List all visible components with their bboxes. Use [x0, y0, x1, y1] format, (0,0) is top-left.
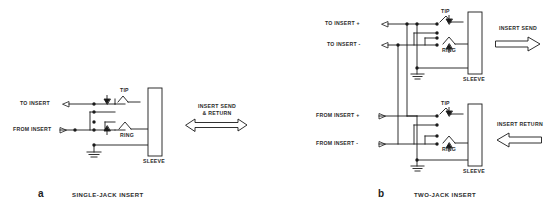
- panel-b-terminal-to-insert-minus-label: TO INSERT -: [327, 41, 361, 47]
- insert-send-return-arrow: [186, 119, 247, 131]
- panel-b-return-sleeve-label: SLEEVE: [463, 168, 485, 174]
- panel-b-insert-return-label: INSERT RETURN: [485, 121, 555, 128]
- panel-b-return-ring-label: RING: [442, 146, 456, 152]
- panel-a-ring-label: RING: [120, 132, 134, 138]
- schematic-drawing: [0, 0, 558, 224]
- panel-b-caption-text: TWO-JACK INSERT: [414, 192, 476, 198]
- panel-a-sleeve-label: SLEEVE: [143, 158, 165, 164]
- panel-a-flow-label-line2: & RETURN: [181, 110, 253, 117]
- panel-b-send-sleeve-label: SLEEVE: [463, 76, 485, 82]
- panel-a-terminal-from-insert-label: FROM INSERT: [13, 126, 52, 132]
- panel-a-caption-text: SINGLE-JACK INSERT: [72, 192, 144, 198]
- panel-b-terminal-to-insert-plus-label: TO INSERT +: [325, 20, 360, 26]
- panel-a-terminal-to-insert-label: TO INSERT: [20, 100, 50, 106]
- panel-b-send-tip-label: TIP: [441, 8, 450, 14]
- figure-canvas: TO INSERT FROM INSERT TIP RING SLEEVE IN…: [0, 0, 558, 224]
- panel-b-insert-send-label: INSERT SEND: [487, 25, 549, 32]
- panel-b-terminal-from-insert-minus-label: FROM INSERT -: [316, 140, 358, 146]
- panel-a-circuit: [60, 88, 162, 157]
- panel-b-send-ring-label: RING: [442, 47, 456, 53]
- panel-b-circuit: [379, 12, 482, 171]
- panel-b-caption-letter: b: [378, 188, 384, 199]
- panel-b-terminal-from-insert-plus-label: FROM INSERT +: [316, 112, 359, 118]
- panel-a-tip-label: TIP: [120, 87, 129, 93]
- insert-return-arrow: [497, 133, 541, 147]
- panel-a-flow-label-line1: INSERT SEND: [181, 103, 253, 110]
- panel-a-caption-letter: a: [38, 188, 44, 199]
- panel-b-return-tip-label: TIP: [441, 100, 450, 106]
- insert-send-arrow: [496, 37, 540, 51]
